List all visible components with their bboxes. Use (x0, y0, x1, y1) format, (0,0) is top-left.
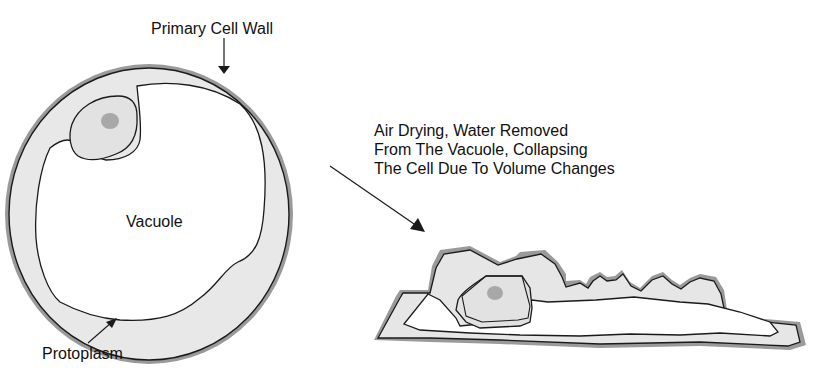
collapsed-cell (374, 246, 806, 350)
diagram-canvas (0, 0, 814, 385)
process-line-1: Air Drying, Water Removed (374, 121, 615, 140)
process-description: Air Drying, Water Removed From The Vacuo… (374, 121, 615, 178)
process-line-3: The Cell Due To Volume Changes (374, 159, 615, 178)
cell-wall-label: Primary Cell Wall (151, 19, 273, 38)
collapsed-nucleolus (487, 286, 503, 300)
vacuole-label: Vacuole (126, 212, 183, 231)
process-line-2: From The Vacuole, Collapsing (374, 140, 615, 159)
protoplasm-label: Protoplasm (42, 344, 123, 363)
nucleolus (101, 113, 119, 129)
cell-wall-arrow (218, 38, 230, 74)
